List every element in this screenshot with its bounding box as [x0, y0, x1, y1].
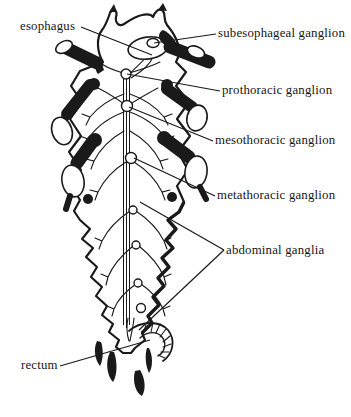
- coxa-patch: [167, 192, 177, 202]
- mid-cercus: [134, 370, 145, 396]
- left-cercus: [107, 352, 116, 382]
- hind-left-leg-tip: [66, 196, 70, 209]
- abdominal-ganglion-node: [137, 304, 146, 313]
- label-esophagus: esophagus: [20, 20, 75, 33]
- head-spike: [158, 3, 167, 11]
- abdominal-ganglion-node: [134, 279, 142, 287]
- label-prothoracic-ganglion: prothoracic ganglion: [222, 84, 332, 97]
- abdominal-ganglion-node: [129, 206, 137, 214]
- tail-dark-patch: [146, 348, 152, 373]
- label-rectum: rectum: [21, 359, 58, 372]
- front-left-leg: [66, 48, 97, 63]
- label-abdominal-ganglia: abdominal ganglia: [226, 244, 324, 257]
- mesothoracic-ganglion-node: [122, 101, 133, 112]
- label-subesophageal-ganglion: subesophageal ganglion: [218, 27, 345, 40]
- figure-insect-nervous-system: esophagus subesophageal ganglion prothor…: [0, 0, 351, 417]
- insect-diagram-art: [0, 0, 351, 417]
- label-metathoracic-ganglion: metathoracic ganglion: [217, 189, 335, 202]
- leader-line-rectum: [60, 340, 150, 366]
- label-mesothoracic-ganglion: mesothoracic ganglion: [215, 134, 335, 147]
- head-spike: [109, 4, 117, 12]
- abdominal-ganglion-node: [132, 241, 140, 249]
- coxa-patch: [83, 194, 93, 204]
